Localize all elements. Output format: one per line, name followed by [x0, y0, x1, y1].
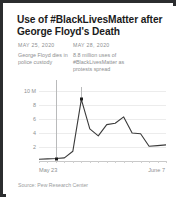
- x-axis-tick: [166, 161, 167, 163]
- x-axis-label-start: May 23: [39, 166, 57, 174]
- y-axis-tick-label: 4: [33, 130, 36, 136]
- annotation-date: MAY 28, 2020: [73, 42, 135, 49]
- annotation-body: George Floyd dies in police custody: [18, 52, 68, 66]
- plot-area: [39, 90, 166, 162]
- annotation-marker: [55, 157, 58, 160]
- y-axis-tick-label: 6: [33, 116, 36, 122]
- annotation-date: MAY 25, 2020: [18, 42, 68, 49]
- x-axis-label-end: June 7: [148, 166, 165, 174]
- y-axis-tick-label: 10 M: [24, 88, 36, 94]
- y-axis-tick-label: 2: [33, 144, 36, 150]
- data-series-line: [39, 99, 166, 159]
- y-axis-tick-label: 8: [33, 102, 36, 108]
- source-note: Source: Pew Research Center: [18, 182, 88, 189]
- annotation-may-25: MAY 25, 2020 George Floyd dies in police…: [18, 42, 68, 66]
- line-chart: 10 M8642: [18, 90, 166, 168]
- annotation-may-28: MAY 28, 2020 8.8 million uses of #BlackL…: [73, 42, 135, 74]
- annotation-leader-line: [56, 80, 57, 159]
- annotation-marker: [80, 98, 83, 101]
- x-axis-labels: May 23 June 7: [39, 166, 165, 176]
- chart-svg: [39, 90, 166, 162]
- infographic-card: Use of #BlackLivesMatter after George Fl…: [6, 6, 176, 197]
- annotation-body: 8.8 million uses of #BlackLivesMatter as…: [73, 52, 135, 74]
- infographic-card-frame: Use of #BlackLivesMatter after George Fl…: [0, 0, 176, 197]
- y-axis-labels: 10 M8642: [18, 90, 37, 162]
- page-title: Use of #BlackLivesMatter after George Fl…: [17, 14, 165, 39]
